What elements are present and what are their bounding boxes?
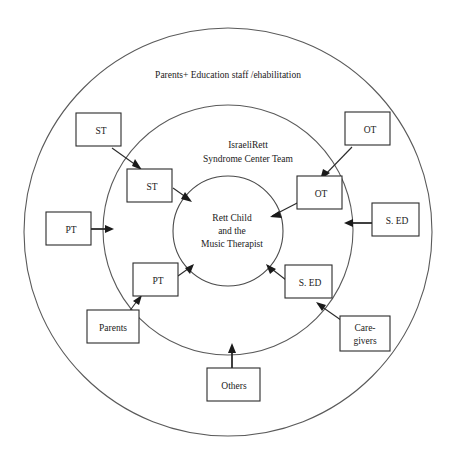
outer-ring-label: Parents+ Education staff /ehabilitation — [155, 70, 301, 80]
connector-ot-outer-to-ot-inner — [320, 147, 352, 180]
node-st-inner-label: ST — [146, 182, 157, 192]
node-sed-inner-label: S. ED — [299, 278, 322, 288]
node-pt-outer-label: PT — [65, 225, 76, 235]
node-ot-inner-label: OT — [315, 189, 328, 199]
node-st-inner[interactable]: ST — [127, 169, 172, 202]
node-parents-outer-label: Parents — [99, 323, 127, 333]
node-ot-outer[interactable]: OT — [345, 112, 390, 145]
node-others-outer-label: Others — [221, 381, 247, 391]
core-label-line1: Rett Child — [212, 213, 252, 223]
core-label-line3: Music Therapist — [201, 239, 263, 249]
node-pt-outer[interactable]: PT — [46, 212, 91, 245]
connector-sed-outer-to-core — [344, 219, 373, 227]
middle-ring-label-line2: Syndrome Center Team — [203, 154, 294, 164]
concentric-circles-diagram: Parents+ Education staff /ehabilitation … — [0, 0, 454, 457]
node-parents-outer[interactable]: Parents — [87, 310, 139, 343]
diagram-canvas: Parents+ Education staff /ehabilitation … — [0, 0, 454, 457]
node-pt-inner[interactable]: PT — [133, 263, 178, 296]
connector-st-outer-to-st-inner — [112, 148, 142, 170]
node-ot-inner[interactable]: OT — [297, 176, 342, 209]
connector-sed-inner-to-core — [266, 264, 286, 280]
middle-ring-label-line1: IsraeliRett — [228, 140, 268, 150]
node-st-outer[interactable]: ST — [76, 113, 121, 146]
node-sed-inner[interactable]: S. ED — [285, 265, 332, 298]
node-sed-outer-label: S. ED — [386, 216, 409, 226]
node-pt-inner-label: PT — [152, 276, 163, 286]
node-others-outer[interactable]: Others — [207, 368, 260, 401]
node-caregivers-outer-label-line1: Care- — [354, 323, 375, 333]
node-ot-outer-label: OT — [364, 125, 377, 135]
node-st-outer-label: ST — [95, 126, 106, 136]
core-label-line2: and the — [218, 226, 246, 236]
node-caregivers-outer[interactable]: Care- givers — [340, 316, 390, 351]
node-caregivers-outer-label-line2: givers — [353, 336, 377, 346]
node-sed-outer[interactable]: S. ED — [372, 203, 419, 236]
